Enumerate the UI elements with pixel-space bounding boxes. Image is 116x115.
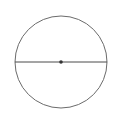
center-point xyxy=(59,60,63,64)
circle-diagram xyxy=(0,0,116,115)
